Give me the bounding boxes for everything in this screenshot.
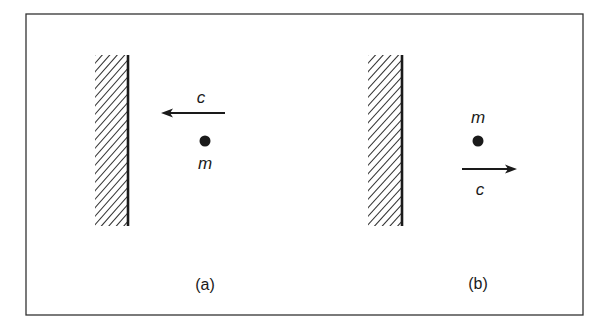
figure-frame [26, 14, 583, 315]
mass-label-a: m [198, 155, 212, 172]
diagram-canvas [0, 0, 605, 326]
velocity-label-a: c [197, 89, 206, 106]
wall-hatching-icon [93, 15, 130, 304]
wall-hatching-icon [366, 15, 404, 304]
particle-dot-icon [473, 136, 484, 147]
velocity-label-b: c [476, 181, 485, 198]
mass-label-b: m [471, 109, 485, 126]
panel-b [366, 15, 517, 304]
panel-caption-b: (b) [468, 276, 488, 292]
particle-dot-icon [200, 136, 211, 147]
panel-caption-a: (a) [195, 277, 215, 293]
